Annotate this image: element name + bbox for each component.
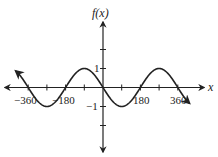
x-tick-label-neg360: −360	[14, 94, 37, 106]
x-tick-label-neg180: −180	[52, 94, 75, 106]
function-graph: f(x) x −360 −180 180 360 1 −1	[0, 0, 218, 157]
x-tick-label-360: 360	[170, 94, 187, 106]
y-tick-label-1: 1	[94, 62, 100, 74]
y-axis-label: f(x)	[92, 6, 109, 20]
x-axis-label: x	[207, 80, 214, 94]
y-tick-label-neg1: −1	[86, 100, 98, 112]
x-tick-label-180: 180	[133, 94, 150, 106]
